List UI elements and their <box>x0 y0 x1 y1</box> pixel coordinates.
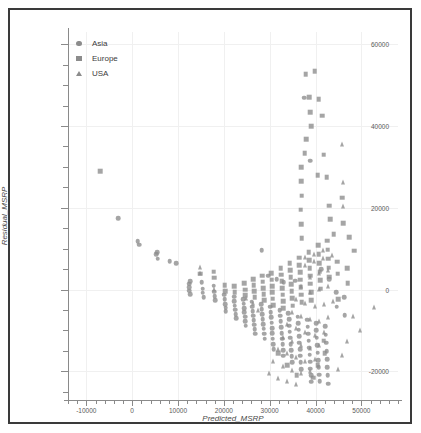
data-point-asia <box>268 310 273 315</box>
data-point-usa <box>341 180 345 185</box>
data-point-europe <box>328 217 333 222</box>
y-axis-tick-label: 60000 <box>371 41 389 48</box>
data-point-usa <box>321 248 325 253</box>
data-point-europe <box>322 351 327 356</box>
data-point-asia <box>232 294 237 299</box>
data-point-europe <box>252 289 257 294</box>
x-axis-title: Predicted_MSRP <box>68 414 398 423</box>
data-point-usa <box>303 330 307 335</box>
data-point-europe <box>332 232 337 237</box>
data-point-asia <box>167 259 172 264</box>
data-point-usa <box>312 258 316 263</box>
data-point-usa <box>267 371 271 376</box>
data-point-usa <box>331 299 335 304</box>
y-axis <box>68 28 69 404</box>
data-point-europe <box>242 281 247 286</box>
legend-item-usa[interactable]: USA <box>72 66 118 81</box>
data-point-europe <box>280 286 285 291</box>
data-point-europe <box>312 69 317 74</box>
data-point-usa <box>313 333 317 338</box>
data-point-asia <box>317 379 322 384</box>
data-point-asia <box>305 325 310 330</box>
data-point-europe <box>327 203 332 208</box>
data-point-usa <box>256 308 260 313</box>
data-point-usa <box>198 264 202 269</box>
data-point-usa <box>341 203 345 208</box>
data-point-asia <box>188 292 193 297</box>
data-point-usa <box>308 369 312 374</box>
gridline-vertical <box>224 32 225 400</box>
data-point-europe <box>251 283 256 288</box>
data-point-europe <box>279 279 284 284</box>
data-point-asia <box>298 354 303 359</box>
data-point-asia <box>262 331 267 336</box>
data-point-usa <box>351 314 355 319</box>
data-point-usa <box>281 363 285 368</box>
data-point-asia <box>270 331 275 336</box>
data-point-europe <box>223 289 228 294</box>
y-axis-tick-label: 20000 <box>371 204 389 211</box>
data-point-europe <box>261 292 266 297</box>
legend-item-europe[interactable]: Europe <box>72 51 118 66</box>
data-point-europe <box>299 165 304 170</box>
data-point-europe <box>316 97 321 102</box>
y-axis-tick <box>61 126 68 127</box>
y-axis-title: Residual_MSRP <box>0 187 9 246</box>
data-point-usa <box>308 317 312 322</box>
data-point-europe <box>324 175 329 180</box>
data-point-usa <box>271 359 275 364</box>
y-axis-tick <box>61 208 68 209</box>
data-point-usa <box>326 267 330 272</box>
data-point-usa <box>303 359 307 364</box>
data-point-europe <box>308 282 313 287</box>
data-point-asia <box>278 319 283 324</box>
data-point-usa <box>303 262 307 267</box>
data-point-asia <box>296 321 301 326</box>
legend-item-asia[interactable]: Asia <box>72 36 118 51</box>
data-point-europe <box>212 275 217 280</box>
data-point-europe <box>325 238 330 243</box>
data-point-europe <box>299 292 304 297</box>
data-point-europe <box>326 247 331 252</box>
data-point-asia <box>269 315 274 320</box>
data-point-europe <box>279 273 284 278</box>
data-point-europe <box>335 271 340 276</box>
data-point-asia <box>334 304 339 309</box>
data-point-europe <box>232 284 237 289</box>
data-point-asia <box>260 307 265 312</box>
data-point-usa <box>299 342 303 347</box>
data-point-europe <box>352 248 357 253</box>
data-point-europe <box>307 266 312 271</box>
data-point-usa <box>285 351 289 356</box>
data-point-usa <box>294 326 298 331</box>
data-point-usa <box>294 381 298 386</box>
data-point-europe <box>260 280 265 285</box>
data-point-usa <box>313 303 317 308</box>
x-axis <box>64 400 402 401</box>
data-point-usa <box>330 253 334 258</box>
data-point-usa <box>312 251 316 256</box>
data-point-europe <box>299 193 304 198</box>
triangle-icon <box>72 71 86 76</box>
data-point-europe <box>290 303 295 308</box>
data-point-asia <box>260 248 265 253</box>
data-point-europe <box>309 298 314 303</box>
data-point-usa <box>290 367 294 372</box>
data-point-europe <box>298 270 303 275</box>
gridline-horizontal <box>68 208 398 209</box>
data-point-usa <box>285 322 289 327</box>
data-point-asia <box>307 352 312 357</box>
data-point-europe <box>269 277 274 282</box>
data-point-asia <box>253 331 258 336</box>
data-point-usa <box>244 295 248 300</box>
data-point-europe <box>280 292 285 297</box>
data-point-europe <box>233 290 238 295</box>
data-point-usa <box>317 319 321 324</box>
data-point-asia <box>302 96 307 101</box>
data-point-usa <box>340 142 344 147</box>
y-axis-tick-label: -20000 <box>369 368 389 375</box>
data-point-usa <box>308 290 312 295</box>
data-point-asia <box>116 216 121 221</box>
data-point-europe <box>98 169 103 174</box>
chart-frame: -200000200004000060000-10000010000200003… <box>8 8 412 424</box>
